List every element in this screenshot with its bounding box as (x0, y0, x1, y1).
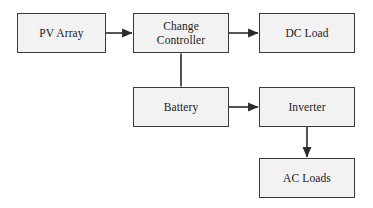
node-pv-array[interactable]: PV Array (17, 13, 106, 53)
node-battery-label: Battery (134, 100, 228, 114)
node-dc-load[interactable]: DC Load (259, 13, 355, 53)
node-inverter-label: Inverter (260, 100, 354, 114)
node-change-controller-label: Change Controller (134, 19, 228, 48)
node-battery[interactable]: Battery (133, 87, 229, 127)
node-ac-loads[interactable]: AC Loads (259, 158, 355, 198)
block-diagram: PV Array Change Controller DC Load Batte… (0, 0, 373, 208)
node-dc-load-label: DC Load (260, 26, 354, 40)
node-change-controller[interactable]: Change Controller (133, 13, 229, 53)
node-ac-loads-label: AC Loads (260, 171, 354, 185)
node-pv-array-label: PV Array (18, 26, 105, 40)
node-inverter[interactable]: Inverter (259, 87, 355, 127)
